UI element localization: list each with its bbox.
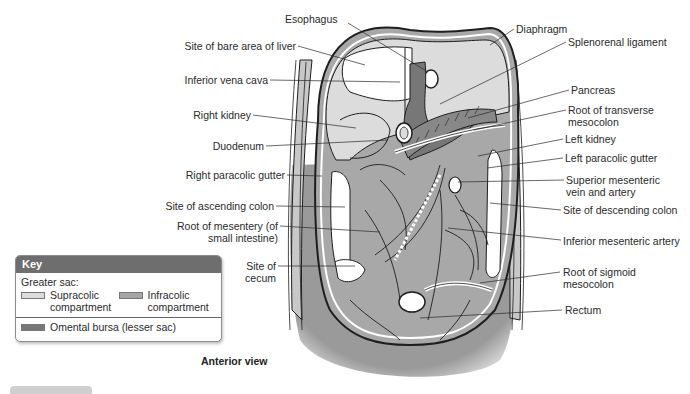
supracolic-swatch — [21, 292, 45, 299]
legend-item-omental-bursa: Omental bursa (lesser sac) — [21, 321, 216, 333]
ascending-colon-site — [331, 172, 350, 269]
label-esophagus: Esophagus — [285, 13, 338, 25]
rectum-shape — [399, 292, 425, 312]
label-root-of-sigmoid-mesocolon: Root of sigmoid mesocolon — [563, 266, 648, 290]
label-splenorenal-ligament: Splenorenal ligament — [568, 36, 667, 48]
label-site-of-ascending-colon: Site of ascending colon — [150, 200, 274, 212]
label-root-of-transverse-mesocolon: Root of transverse mesocolon — [568, 104, 668, 128]
legend-key: Key Greater sac: Supracoliccompartment I… — [15, 255, 222, 342]
legend-title: Key — [16, 256, 221, 273]
label-superior-mesenteric-vein-and-artery: Superior mesenteric vein and artery — [566, 174, 666, 198]
bare-area-of-liver — [342, 47, 412, 101]
label-inferior-mesenteric-artery: Inferior mesenteric artery — [563, 235, 680, 247]
label-right-paracolic-gutter: Right paracolic gutter — [150, 169, 285, 181]
legend-divider — [16, 317, 221, 318]
label-diaphragm: Diaphragm — [516, 23, 567, 35]
label-right-kidney: Right kidney — [150, 109, 251, 121]
label-site-of-cecum: Site of cecum — [236, 260, 276, 284]
label-pancreas: Pancreas — [571, 84, 615, 96]
legend-item-infracolic: Infracoliccompartment — [119, 289, 217, 313]
figure-caption: Anterior view — [201, 355, 268, 367]
legend-item-supracolic: Supracoliccompartment — [21, 289, 119, 313]
label-site-of-descending-colon: Site of descending colon — [563, 204, 677, 216]
descending-colon-site — [486, 150, 502, 278]
label-rectum: Rectum — [565, 304, 601, 316]
infracolic-swatch — [119, 292, 143, 299]
label-left-kidney: Left kidney — [565, 133, 616, 145]
label-root-of-mesentery: Root of mesentery (of small intestine) — [160, 220, 278, 244]
label-inferior-vena-cava: Inferior vena cava — [150, 74, 268, 86]
label-duodenum: Duodenum — [150, 140, 264, 152]
label-site-of-bare-area-of-liver: Site of bare area of liver — [150, 40, 296, 52]
omental-bursa-swatch — [21, 324, 45, 331]
legend-group-label: Greater sac: — [21, 276, 216, 288]
label-left-paracolic-gutter: Left paracolic gutter — [565, 152, 657, 164]
figure-tab-decoration — [10, 386, 92, 394]
